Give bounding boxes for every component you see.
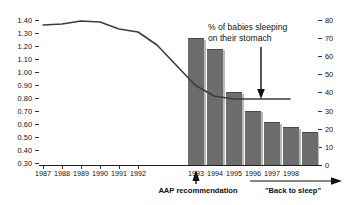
y-tick-mark [35,33,39,34]
y-tick-label-0-40: 0.40 [8,146,32,155]
right-tick-mark [318,20,322,21]
y-tick-mark [35,72,39,73]
right-tick-label-20: 20 [325,125,333,134]
y-tick-label-1-40: 1.40 [8,16,32,25]
y-tick-mark [35,124,39,125]
y-tick-label-0-70: 0.70 [8,107,32,116]
right-tick-label-80: 80 [325,16,333,25]
y-tick-label-0-90: 0.90 [8,81,32,90]
stomach-note-line2: on their stomach [208,33,272,44]
y-tick-label-1-10: 1.10 [8,55,32,64]
y-tick-mark [35,137,39,138]
y-tick-mark [35,85,39,86]
right-tick-mark [318,74,322,75]
bar-1995 [245,111,261,166]
back-to-sleep-caption: "Back to sleep" [238,186,348,195]
x-tick-label-1992: 1992 [126,169,150,178]
y-tick-mark [35,150,39,151]
stomach-note-line1: % of babies sleeping [208,22,287,33]
y-tick-mark [35,111,39,112]
x-tick-label-1998: 1998 [279,169,303,178]
right-tick-mark [318,38,322,39]
y-tick-mark [35,163,39,164]
y-tick-label-1-00: 1.00 [8,68,32,77]
right-tick-mark [318,111,322,112]
bar-1998 [302,132,318,166]
y-tick-label-0-50: 0.50 [8,133,32,142]
right-tick-label-60: 60 [325,52,333,61]
y-tick-mark [35,59,39,60]
y-tick-mark [35,20,39,21]
right-tick-label-50: 50 [325,70,333,79]
y-tick-label-0-60: 0.60 [8,120,32,129]
bar-1993 [207,49,223,166]
bar-1994 [226,92,242,166]
y-tick-mark [35,98,39,99]
stomach-note-arrow-head [257,89,265,99]
right-tick-mark [318,92,322,93]
y-tick-label-0-80: 0.80 [8,94,32,103]
right-tick-label-0: 0 [325,161,329,170]
right-tick-label-70: 70 [325,34,333,43]
bar-1992 [188,38,204,166]
right-tick-label-10: 10 [325,143,333,152]
right-tick-label-30: 30 [325,107,333,116]
right-tick-label-40: 40 [325,88,333,97]
sids-chart: SIDS rate per 1000 live births 1.40 1.30… [0,0,355,205]
right-tick-mark [318,56,322,57]
right-tick-mark [318,129,322,130]
y-tick-label-1-30: 1.30 [8,29,32,38]
bar-1997 [283,127,299,166]
bar-1996 [264,122,280,166]
y-tick-mark [35,46,39,47]
back-to-sleep-arrow-head [331,177,342,185]
y-tick-label-1-20: 1.20 [8,42,32,51]
y-tick-label-0-30: 0.30 [8,159,32,168]
